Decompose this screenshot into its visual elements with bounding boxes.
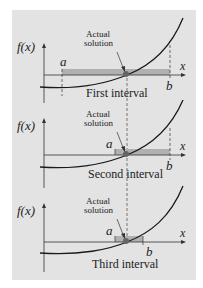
graph-third-interval: f(x) x a b Actual solution Third interva… [17, 186, 186, 272]
x-axis-label: x [179, 226, 186, 240]
root-point [123, 238, 129, 244]
root-point [123, 71, 129, 77]
a-label: a [106, 136, 113, 151]
x-axis-arrow-icon [181, 153, 186, 157]
function-curve [40, 100, 183, 168]
x-axis-label: x [179, 139, 186, 153]
y-axis-arrow-icon [42, 203, 46, 208]
b-label: b [166, 158, 173, 173]
y-axis-arrow-icon [42, 43, 46, 48]
a-label: a [60, 54, 67, 69]
a-label: a [106, 223, 113, 238]
graph-first-interval: f(x) x a b Actual solution First interva… [17, 18, 186, 103]
root-point [123, 151, 129, 157]
function-curve [40, 18, 183, 88]
function-curve [40, 186, 183, 254]
b-label: b [166, 78, 173, 93]
interval-band [62, 69, 170, 75]
bisection-diagram: f(x) x a b Actual solution First interva… [0, 0, 203, 288]
y-axis-label: f(x) [17, 118, 35, 133]
annotation-line2: solution [84, 38, 114, 48]
annotation-line2: solution [84, 205, 114, 215]
x-axis-arrow-icon [181, 73, 186, 77]
y-axis-arrow-icon [42, 118, 46, 123]
y-axis-label: f(x) [17, 203, 35, 218]
interval-caption: Second interval [88, 167, 164, 181]
graph-second-interval: f(x) x a b Actual solution Second interv… [17, 100, 186, 188]
y-axis-label: f(x) [17, 39, 35, 54]
x-axis-arrow-icon [181, 240, 186, 244]
interval-caption: Third interval [92, 257, 159, 271]
x-axis-label: x [179, 59, 186, 73]
annotation-line2: solution [84, 118, 114, 128]
interval-caption: First interval [86, 86, 148, 100]
